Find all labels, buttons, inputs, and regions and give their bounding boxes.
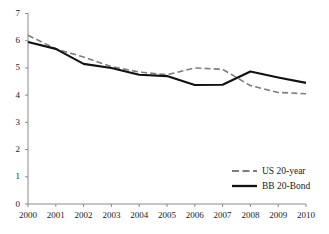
y-axis-tick-label: 0 — [6, 200, 20, 209]
y-axis-tick-label: 4 — [6, 91, 20, 100]
x-axis-tick-label: 2000 — [15, 211, 41, 220]
series-line-bb-20-bond — [28, 42, 306, 85]
x-axis-tick-label: 2001 — [43, 211, 69, 220]
x-axis-tick-label: 2006 — [182, 211, 208, 220]
chart-plot-area — [0, 0, 329, 234]
y-axis-tick-label: 5 — [6, 63, 20, 72]
x-axis-tick-label: 2009 — [265, 211, 291, 220]
x-axis-tick-label: 2010 — [293, 211, 319, 220]
y-axis-tick-label: 1 — [6, 172, 20, 181]
line-chart: 01234567 2000200120022003200420052006200… — [0, 0, 329, 234]
x-axis-tick-label: 2008 — [237, 211, 263, 220]
x-axis-tick-label: 2002 — [71, 211, 97, 220]
y-axis-tick-label: 2 — [6, 145, 20, 154]
y-axis-tick-label: 6 — [6, 36, 20, 45]
y-axis-tick-label: 3 — [6, 118, 20, 127]
legend-label-us-20-year: US 20-year — [262, 166, 306, 176]
legend-swatch-solid-icon — [232, 181, 257, 191]
legend-swatch-dashed-icon — [232, 166, 257, 176]
legend-label-bb-20-bond: BB 20-Bond — [262, 181, 310, 191]
chart-legend: US 20-year BB 20-Bond — [232, 163, 324, 193]
legend-item-bb-20-bond: BB 20-Bond — [232, 178, 324, 193]
x-axis-tick-label: 2004 — [126, 211, 152, 220]
x-axis-tick-label: 2003 — [98, 211, 124, 220]
series-line-us-20-year — [28, 35, 306, 94]
y-axis-tick-label: 7 — [6, 9, 20, 18]
x-axis-tick-label: 2007 — [210, 211, 236, 220]
series-layer — [28, 35, 306, 94]
x-axis-tick-label: 2005 — [154, 211, 180, 220]
legend-item-us-20-year: US 20-year — [232, 163, 324, 178]
